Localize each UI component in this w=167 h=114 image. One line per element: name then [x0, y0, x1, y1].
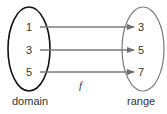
range-value-3: 7	[138, 66, 144, 78]
function-label: f	[79, 79, 84, 91]
range-value-1: 3	[138, 21, 144, 33]
domain-value-2: 3	[26, 44, 32, 56]
domain-value-3: 5	[26, 66, 32, 78]
function-mapping-diagram: 1 3 5 3 5 7 f domain range	[0, 0, 167, 114]
range-value-2: 5	[138, 44, 144, 56]
domain-value-1: 1	[26, 21, 32, 33]
domain-label: domain	[12, 95, 48, 107]
range-label: range	[127, 95, 155, 107]
